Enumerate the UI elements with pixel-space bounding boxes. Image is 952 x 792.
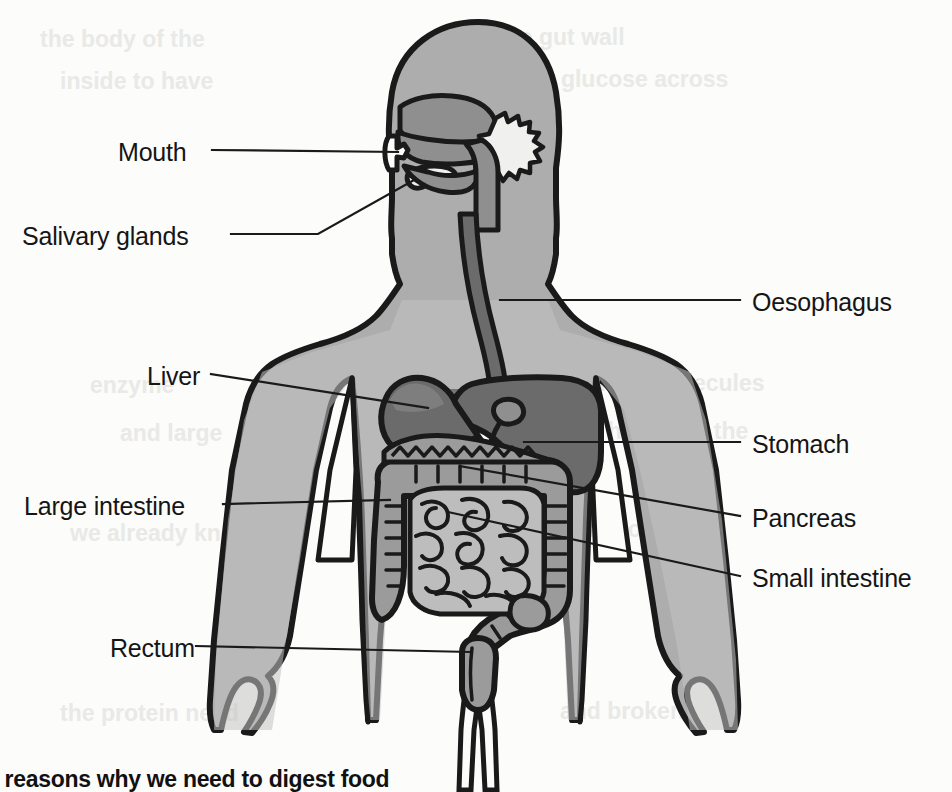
digestive-system-illustration [0,0,952,792]
rectum-inner-line [471,648,473,700]
leader-mouth [212,150,398,152]
rectum-shape [462,638,496,710]
label-mouth: Mouth [118,138,186,167]
label-oesophagus: Oesophagus [752,288,892,317]
caecum [510,596,548,630]
label-rectum: Rectum [110,634,195,663]
label-liver: Liver [147,362,200,391]
gall-bladder [494,399,524,424]
label-stomach: Stomach [752,430,849,459]
digestive-system-figure: the body of theof the gut wallinside to … [0,0,952,792]
label-small-intestine: Small intestine [752,564,912,593]
figure-caption: e reasons why we need to digest food [0,766,389,792]
label-salivary-glands: Salivary glands [22,222,189,251]
label-large-intestine: Large intestine [24,492,185,521]
label-pancreas: Pancreas [752,504,856,533]
leader-salivary-glands [231,180,414,234]
human-body-silhouette [210,22,739,790]
